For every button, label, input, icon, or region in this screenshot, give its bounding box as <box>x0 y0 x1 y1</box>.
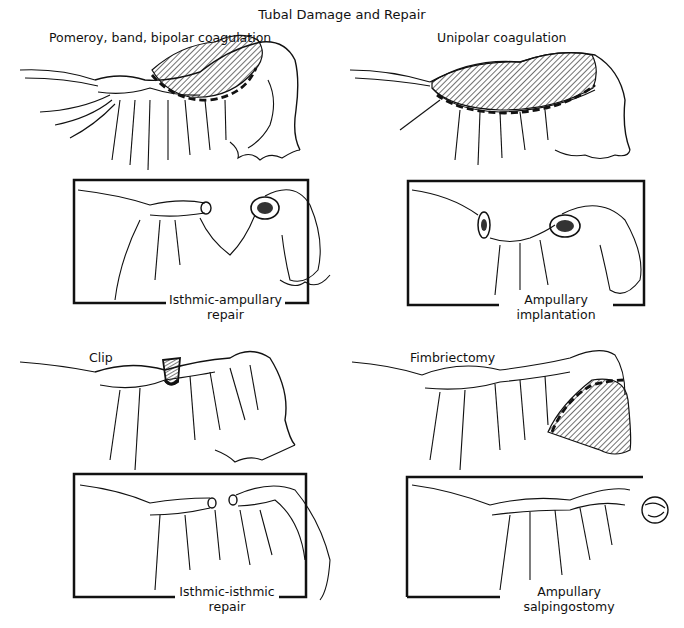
tube-repair-ampullary-implantation <box>412 190 641 295</box>
tube-damage-unipolar <box>350 53 630 165</box>
figure-title: Tubal Damage and Repair <box>0 7 684 22</box>
tube-repair-isthmic-isthmic <box>80 485 330 600</box>
caption-isthmic-isthmic-repair: Isthmic-isthmic repair <box>175 584 279 614</box>
tube-repair-isthmic-ampullary <box>78 190 330 300</box>
caption-line1: Isthmic-ampullary <box>168 292 283 307</box>
repair-box-isthmic-isthmic <box>74 474 306 597</box>
caption-line2: salpingostomy <box>514 599 624 614</box>
caption-line1: Ampullary <box>501 292 611 307</box>
label-fimbriectomy: Fimbriectomy <box>410 350 495 365</box>
caption-ampullary-implantation: Ampullary implantation <box>499 292 613 322</box>
caption-line2: repair <box>168 307 283 322</box>
tube-damage-pomeroy <box>20 35 300 170</box>
caption-line1: Isthmic-isthmic <box>177 584 277 599</box>
caption-isthmic-ampullary-repair: Isthmic-ampullary repair <box>166 292 285 322</box>
label-pomeroy-band-bipolar: Pomeroy, band, bipolar coagulation <box>49 30 271 45</box>
caption-line1: Ampullary <box>514 584 624 599</box>
tube-repair-ampullary-salpingostomy <box>412 485 668 590</box>
repair-box-ampullary-implantation <box>408 181 644 305</box>
caption-line2: repair <box>177 599 277 614</box>
caption-ampullary-salpingostomy: Ampullary salpingostomy <box>512 584 626 614</box>
caption-line2: implantation <box>501 307 611 322</box>
label-clip: Clip <box>89 350 113 365</box>
tube-damage-clip <box>20 352 295 471</box>
repair-box-ampullary-salpingostomy <box>407 477 643 597</box>
tube-damage-fimbriectomy <box>352 351 631 470</box>
label-unipolar-coagulation: Unipolar coagulation <box>437 30 567 45</box>
